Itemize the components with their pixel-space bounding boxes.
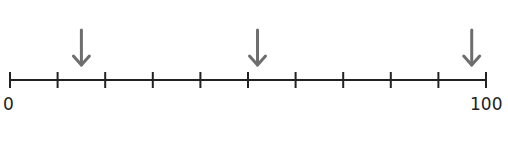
max-label: 100 bbox=[470, 96, 502, 113]
down-arrow-icon bbox=[73, 30, 89, 65]
arrow-markers bbox=[73, 30, 479, 65]
number-line-diagram bbox=[0, 0, 508, 157]
down-arrow-icon bbox=[464, 30, 480, 65]
min-label: 0 bbox=[3, 96, 14, 113]
down-arrow-icon bbox=[250, 30, 266, 65]
number-line-axis bbox=[10, 72, 486, 88]
